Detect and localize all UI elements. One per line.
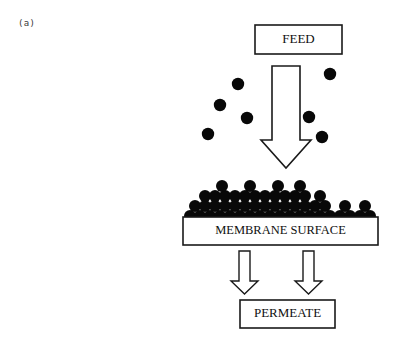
suspended-particle <box>241 112 253 124</box>
suspended-particle <box>324 68 336 80</box>
suspended-particle <box>316 131 328 143</box>
permeate-box: PERMEATE <box>240 300 335 328</box>
permeate-flow-arrow-right <box>295 251 322 294</box>
suspended-particles-group <box>202 68 336 143</box>
cake-particle <box>272 180 284 192</box>
permeate-flow-arrow-left <box>231 251 258 294</box>
suspended-particle <box>232 78 244 90</box>
cake-particle <box>216 180 228 192</box>
cake-particle <box>359 200 371 212</box>
cake-particle <box>294 180 306 192</box>
membrane-box-label: MEMBRANE SURFACE <box>215 223 346 237</box>
permeate-box-label: PERMEATE <box>254 305 321 320</box>
membrane-box: MEMBRANE SURFACE <box>183 217 378 245</box>
cake-particle <box>339 200 351 212</box>
feed-box-label: FEED <box>282 31 315 46</box>
arrows-layer <box>231 66 322 294</box>
cake-layer-group <box>184 180 376 222</box>
feed-box: FEED <box>255 25 342 54</box>
membrane-fouling-figure: (a) FEEDMEMBRANE SURFACEPERMEATE <box>0 0 407 345</box>
diagram-canvas: FEEDMEMBRANE SURFACEPERMEATE <box>0 0 407 345</box>
cake-particle <box>314 190 326 202</box>
suspended-particle <box>214 99 226 111</box>
suspended-particle <box>303 111 315 123</box>
cake-particle <box>244 180 256 192</box>
suspended-particle <box>202 128 214 140</box>
